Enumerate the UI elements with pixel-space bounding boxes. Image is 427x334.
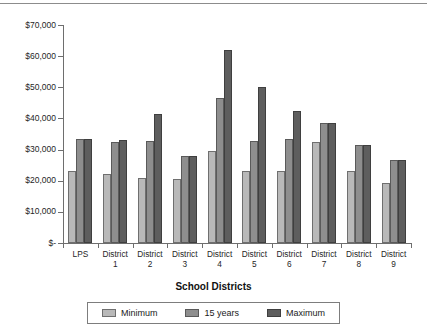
bar-group bbox=[173, 25, 197, 243]
bar bbox=[390, 160, 398, 243]
bar bbox=[224, 50, 232, 243]
bar bbox=[347, 171, 355, 243]
bar bbox=[146, 141, 154, 243]
bar-group bbox=[68, 25, 92, 243]
bar bbox=[111, 142, 119, 243]
x-axis-tick bbox=[202, 243, 203, 248]
x-axis-tick bbox=[307, 243, 308, 248]
x-axis-tick bbox=[376, 243, 377, 248]
bar-group bbox=[208, 25, 232, 243]
x-axis-tick bbox=[167, 243, 168, 248]
bar bbox=[320, 123, 328, 243]
x-axis-title: School Districts bbox=[0, 281, 427, 292]
legend-swatch-icon bbox=[267, 309, 281, 317]
bar bbox=[68, 171, 76, 243]
bar-group bbox=[242, 25, 266, 243]
bar bbox=[84, 139, 92, 243]
bar bbox=[173, 179, 181, 243]
legend-label: Maximum bbox=[286, 308, 325, 318]
plot-area bbox=[63, 25, 411, 243]
top-divider-rule bbox=[0, 3, 427, 4]
bar bbox=[189, 156, 197, 243]
bar bbox=[154, 114, 162, 243]
bar-group bbox=[277, 25, 301, 243]
legend-item: Minimum bbox=[102, 308, 158, 318]
legend-label: 15 years bbox=[204, 308, 239, 318]
bar-group bbox=[347, 25, 371, 243]
y-axis-tick-label: $40,000 bbox=[2, 114, 56, 123]
bar bbox=[208, 151, 216, 243]
bar-group bbox=[382, 25, 406, 243]
legend-item: 15 years bbox=[185, 308, 239, 318]
bar bbox=[216, 98, 224, 243]
x-axis-tick bbox=[133, 243, 134, 248]
x-axis-tick bbox=[272, 243, 273, 248]
y-axis-tick-label: $20,000 bbox=[2, 176, 56, 185]
bar bbox=[181, 156, 189, 243]
bar bbox=[293, 111, 301, 243]
bar bbox=[277, 171, 285, 243]
y-axis-tick-label: $70,000 bbox=[2, 21, 56, 30]
bar bbox=[363, 145, 371, 243]
y-axis-tick-label: $50,000 bbox=[2, 83, 56, 92]
bar bbox=[119, 140, 127, 243]
y-axis-tick-label: $- bbox=[2, 239, 56, 248]
x-axis-tick bbox=[411, 243, 412, 248]
bar-group bbox=[138, 25, 162, 243]
bar bbox=[285, 139, 293, 243]
chart-legend: Minimum15 yearsMaximum bbox=[87, 302, 340, 324]
bar bbox=[250, 141, 258, 243]
x-axis-category-label: District9 bbox=[372, 249, 415, 269]
x-axis-tick bbox=[237, 243, 238, 248]
category-label-line: District bbox=[372, 249, 415, 259]
bar bbox=[103, 174, 111, 243]
bar bbox=[138, 178, 146, 243]
bar bbox=[355, 145, 363, 243]
bar bbox=[242, 171, 250, 243]
bar-group bbox=[312, 25, 336, 243]
x-axis-tick bbox=[98, 243, 99, 248]
bar bbox=[312, 142, 320, 243]
legend-item: Maximum bbox=[267, 308, 325, 318]
bar bbox=[382, 183, 390, 243]
bar bbox=[328, 123, 336, 243]
x-axis-tick bbox=[341, 243, 342, 248]
y-axis-tick-label: $60,000 bbox=[2, 52, 56, 61]
y-axis-tick-label: $30,000 bbox=[2, 145, 56, 154]
legend-label: Minimum bbox=[121, 308, 158, 318]
y-axis-tick-label: $10,000 bbox=[2, 207, 56, 216]
bar-group bbox=[103, 25, 127, 243]
chart-figure: $-$10,000$20,000$30,000$40,000$50,000$60… bbox=[0, 0, 427, 334]
bar bbox=[398, 160, 406, 243]
bar bbox=[258, 87, 266, 243]
category-label-line: 9 bbox=[372, 259, 415, 269]
bar bbox=[76, 139, 84, 243]
x-axis-tick bbox=[63, 243, 64, 248]
legend-swatch-icon bbox=[102, 309, 116, 317]
legend-swatch-icon bbox=[185, 309, 199, 317]
